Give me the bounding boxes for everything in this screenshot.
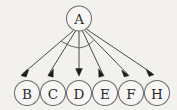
edge-a-to-e [83, 31, 104, 75]
node-b[interactable]: B [15, 81, 40, 106]
edge-a-to-c [49, 31, 76, 75]
edge-a-to-h [87, 30, 153, 74]
node-c[interactable]: C [41, 81, 66, 106]
node-a[interactable]: A [67, 6, 92, 31]
angle-arc-left [62, 42, 80, 49]
node-b-label: B [22, 86, 32, 102]
node-f[interactable]: F [119, 81, 144, 106]
node-a-label: A [73, 11, 84, 27]
arrowhead-group [21, 69, 154, 78]
arrowhead-h [146, 70, 154, 77]
node-d[interactable]: D [67, 81, 92, 106]
node-d-label: D [74, 86, 85, 102]
node-h-label: H [151, 86, 163, 102]
arrowhead-d [76, 69, 83, 77]
node-e[interactable]: E [93, 81, 118, 106]
diagram-canvas: A B C D E F H [0, 0, 177, 110]
angle-arc-right [79, 41, 94, 49]
node-h[interactable]: H [145, 81, 170, 106]
edge-a-to-b [22, 31, 74, 75]
node-f-label: F [126, 86, 135, 102]
graph-svg: A B C D E F H [0, 0, 177, 110]
angle-mark-group [62, 41, 94, 49]
arrowhead-f [122, 70, 130, 77]
edge-group [22, 30, 153, 75]
arrowhead-c [48, 69, 54, 77]
node-c-label: C [48, 86, 58, 102]
arrowhead-b-fill [21, 70, 29, 77]
node-e-label: E [100, 86, 110, 102]
